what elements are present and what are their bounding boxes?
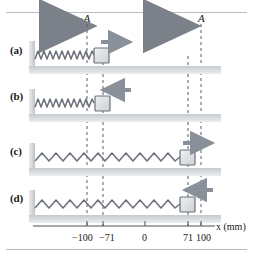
ground-b — [29, 114, 221, 122]
wall-b — [29, 89, 35, 115]
row-d-system — [29, 190, 221, 223]
row-c-system — [29, 143, 221, 176]
block-b — [95, 96, 110, 111]
wall-d — [29, 190, 35, 216]
wall-c — [29, 143, 35, 169]
ground-a — [29, 66, 221, 74]
block-a — [94, 48, 109, 63]
ground-c — [29, 168, 221, 176]
spring-c-stretched — [35, 153, 180, 161]
block-d — [180, 197, 195, 212]
spring-d-stretched — [35, 200, 180, 208]
ground-d — [29, 215, 221, 223]
row-a-system — [29, 41, 221, 74]
figure-canvas — [0, 0, 253, 261]
spring-a-compressed — [35, 51, 94, 59]
spring-b-compressed — [35, 99, 94, 107]
physics-figure-oscillator: (a) (b) (c) (d) −A A −100 −71 0 71 100 x… — [0, 0, 253, 261]
row-b-system — [29, 89, 221, 122]
wall-a — [29, 41, 35, 67]
block-c — [180, 150, 195, 165]
